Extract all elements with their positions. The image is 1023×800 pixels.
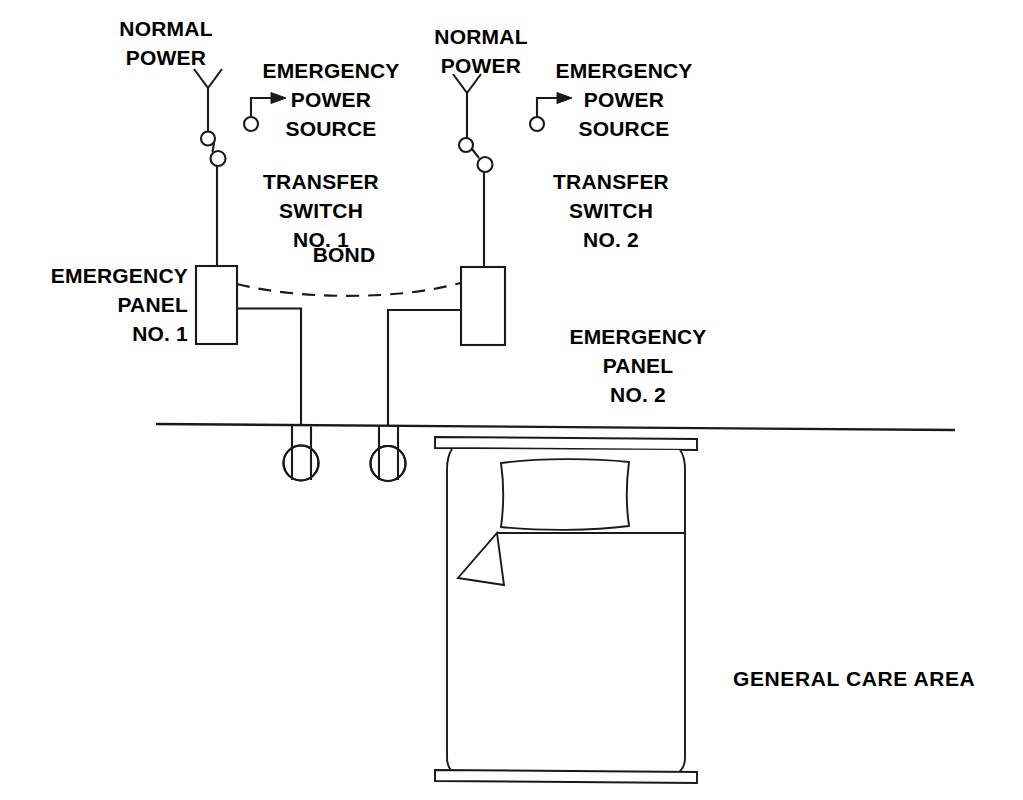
panel2-branch-circuit — [388, 310, 461, 425]
label-normal-power-2: NORMAL POWER — [434, 22, 527, 80]
transfer-switch-no-1-symbol — [194, 69, 226, 266]
wall-line-path — [156, 424, 955, 430]
transfer-switch-no-2-symbol — [453, 74, 493, 267]
label-emergency-panel-1: EMERGENCY PANEL NO. 1 — [51, 261, 188, 348]
label-transfer-switch-2: TRANSFER SWITCH NO. 2 — [553, 167, 669, 254]
label-bond: BOND — [313, 240, 376, 269]
switch1-blade — [213, 143, 215, 152]
bed-pillow — [501, 459, 629, 530]
label-emergency-power-source-2: EMERGENCY POWER SOURCE — [555, 56, 692, 143]
panel1-box — [196, 266, 237, 344]
label-general-care-area: GENERAL CARE AREA — [733, 664, 975, 693]
bed-headboard — [435, 437, 697, 450]
diagram-canvas: NORMAL POWER EMERGENCY POWER SOURCE TRAN… — [0, 0, 1023, 800]
switch1-load-contact — [211, 151, 226, 166]
panel1-branch-circuit — [237, 309, 301, 426]
receptacle-outlet-2-symbol — [371, 427, 406, 482]
bond-dashed-arc — [237, 283, 460, 296]
panel2-box — [461, 267, 505, 345]
label-emergency-power-source-1: EMERGENCY POWER SOURCE — [262, 56, 399, 143]
switch2-blade — [472, 149, 479, 158]
label-emergency-panel-2: EMERGENCY PANEL NO. 2 — [569, 322, 706, 409]
emergency-panel-no-1-symbol — [196, 266, 301, 425]
switch2-load-contact — [478, 157, 493, 172]
bed-footboard — [435, 770, 697, 783]
eps2-terminal-circle — [530, 117, 544, 131]
label-normal-power-1: NORMAL POWER — [119, 14, 212, 72]
patient-bed-symbol — [435, 437, 697, 783]
emergency-panel-no-2-symbol — [388, 267, 505, 425]
bond-conductor-symbol — [237, 283, 460, 296]
eps1-terminal-circle — [244, 117, 258, 131]
receptacle-outlet-1-symbol — [284, 426, 319, 481]
switch2-pivot-contact — [459, 138, 473, 152]
